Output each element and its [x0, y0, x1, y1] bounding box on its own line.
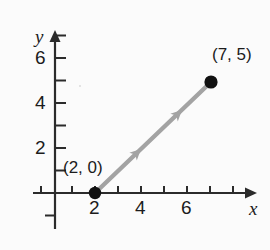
point-label-end: (7, 5) [212, 45, 252, 65]
x-axis-label: x [249, 198, 257, 220]
y-axis-label: y [35, 26, 43, 48]
y-tick-label-4: 4 [35, 92, 46, 114]
coordinate-plane-figure: y x 6 4 2 2 4 6 (2, 0) (7, 5) [0, 0, 270, 250]
y-tick-label-2: 2 [35, 137, 46, 159]
x-tick-label-4: 4 [135, 197, 146, 219]
vector-arrow-group [95, 82, 211, 193]
scan-speck [79, 85, 81, 87]
x-tick-label-2: 2 [89, 197, 100, 219]
point-label-start: (2, 0) [63, 158, 103, 178]
x-axis-arrowhead [245, 188, 257, 199]
x-tick-label-6: 6 [181, 197, 192, 219]
y-tick-label-6: 6 [35, 47, 46, 69]
vector-shaft [95, 82, 211, 193]
point-dot-end [204, 75, 217, 88]
